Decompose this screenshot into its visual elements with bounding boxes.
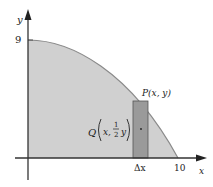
point-q-y: y [120, 127, 127, 137]
delta-x-label: Δx [134, 163, 146, 173]
y-axis-label: y [16, 14, 23, 25]
fraction-numerator: 1 [114, 121, 118, 129]
x-tick-label-10: 10 [174, 163, 186, 173]
region-under-curve [28, 40, 178, 158]
y-tick-label-9: 9 [15, 34, 21, 45]
point-q-x: x, [103, 127, 111, 137]
diagram-canvas: y 9 10 x Δx P(x, y) Q x, 1 2 y [0, 0, 213, 187]
centroid-dot [140, 128, 142, 130]
x-axis-label: x [199, 166, 204, 176]
point-q-prefix: Q [88, 127, 96, 138]
point-p-label: P(x, y) [141, 88, 171, 98]
x-axis-arrow-icon [196, 155, 207, 162]
y-axis-arrow-icon [25, 9, 32, 20]
fraction-denominator: 2 [114, 131, 118, 139]
